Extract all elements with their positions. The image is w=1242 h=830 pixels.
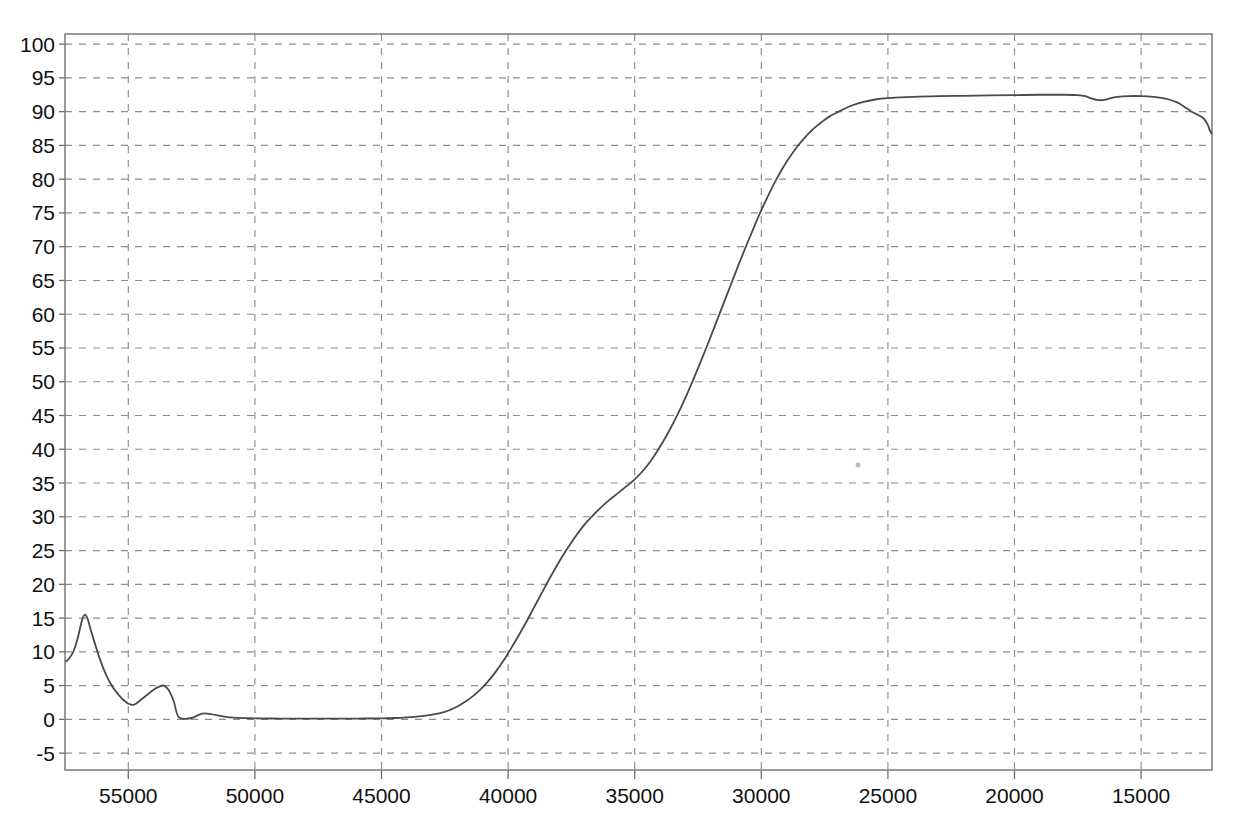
x-axis-tick-labels: 5500050000450004000035000300002500020000…	[99, 784, 1170, 807]
y-axis-tick-labels: -505101520253035404550556065707580859095…	[20, 33, 55, 765]
y-axis-tick-label: 55	[32, 336, 55, 359]
y-axis-tick-label: 100	[20, 33, 55, 56]
vertical-gridlines	[128, 34, 1141, 770]
x-axis-tick-label: 35000	[605, 784, 663, 807]
y-axis-tick-label: 45	[32, 404, 55, 427]
axis-tickmarks	[59, 44, 1141, 779]
y-axis-tick-label: 90	[32, 100, 55, 123]
y-axis-tick-label: 75	[32, 201, 55, 224]
y-axis-tick-label: 85	[32, 134, 55, 157]
y-axis-tick-label: 20	[32, 573, 55, 596]
y-axis-tick-label: 25	[32, 539, 55, 562]
y-axis-tick-label: -5	[36, 742, 55, 765]
y-axis-tick-label: 60	[32, 303, 55, 326]
x-axis-tick-label: 25000	[859, 784, 917, 807]
x-axis-tick-label: 30000	[732, 784, 790, 807]
y-axis-tick-label: 70	[32, 235, 55, 258]
transmittance-spectrum-plot: -505101520253035404550556065707580859095…	[0, 0, 1242, 830]
y-axis-tick-label: 65	[32, 269, 55, 292]
y-axis-tick-label: 0	[43, 708, 55, 731]
plot-frame	[65, 34, 1212, 770]
x-axis-tick-label: 20000	[985, 784, 1043, 807]
y-axis-tick-label: 35	[32, 472, 55, 495]
y-axis-tick-label: 80	[32, 168, 55, 191]
x-axis-tick-label: 50000	[226, 784, 284, 807]
annotation-specks	[856, 463, 861, 468]
transmittance-curve	[66, 95, 1211, 719]
x-axis-tick-label: 15000	[1112, 784, 1170, 807]
y-axis-tick-label: 15	[32, 607, 55, 630]
x-axis-tick-label: 40000	[479, 784, 537, 807]
y-axis-tick-label: 50	[32, 370, 55, 393]
horizontal-gridlines	[65, 44, 1212, 753]
x-axis-tick-label: 55000	[99, 784, 157, 807]
x-axis-tick-label: 45000	[352, 784, 410, 807]
y-axis-tick-label: 10	[32, 640, 55, 663]
y-axis-tick-label: 30	[32, 505, 55, 528]
chart-container: -505101520253035404550556065707580859095…	[0, 0, 1242, 830]
y-axis-tick-label: 5	[43, 674, 55, 697]
y-axis-tick-label: 95	[32, 66, 55, 89]
y-axis-tick-label: 40	[32, 438, 55, 461]
